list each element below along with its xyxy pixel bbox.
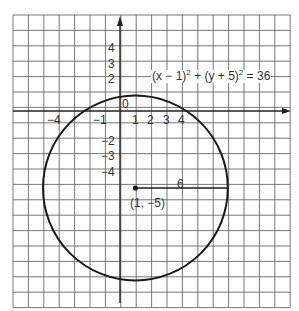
equation-rhs: = 36	[243, 69, 270, 83]
x-tick-label: −4	[47, 114, 61, 126]
circle-graph-figure: (x − 1)2 + (y + 5)2 = 36 0 −4 −1 1 2 3 4…	[0, 0, 299, 311]
x-tick-label: 4	[178, 114, 185, 126]
y-axis-arrow-icon	[117, 16, 123, 26]
x-tick-label: 1	[132, 114, 139, 126]
y-tick-label: −3	[101, 150, 115, 162]
equation-part-x: (x − 1)	[152, 69, 186, 83]
coordinate-plane	[0, 0, 299, 311]
y-tick-label: 2	[108, 73, 115, 85]
circle-equation: (x − 1)2 + (y + 5)2 = 36	[151, 70, 271, 83]
y-tick-label: 4	[108, 42, 115, 54]
x-tick-label: 3	[163, 114, 170, 126]
y-tick-label: 3	[108, 58, 115, 70]
x-tick-label: −1	[93, 114, 107, 126]
equation-part-y: + (y + 5)	[191, 69, 239, 83]
y-tick-label: −2	[101, 135, 115, 147]
origin-label: 0	[122, 98, 129, 110]
grid-lines	[13, 15, 290, 308]
center-label: (1, −5)	[130, 197, 165, 209]
y-tick-label: −4	[101, 166, 115, 178]
x-tick-label: 2	[147, 114, 154, 126]
center-point	[133, 185, 138, 190]
radius-label: 6	[177, 178, 184, 190]
x-axis-arrow-icon	[282, 108, 291, 114]
